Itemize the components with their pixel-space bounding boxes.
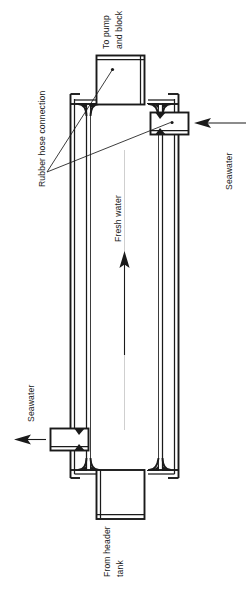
label-to-pump-line1: To pump: [101, 15, 111, 49]
label-tank-line2: tank: [115, 560, 125, 577]
label-from-header-tank: From header tank: [102, 526, 125, 577]
fresh-water-flow-arrow: [119, 251, 129, 355]
top-header-box: [97, 56, 145, 105]
seawater-inlet-arrow: [194, 118, 246, 128]
bottom-header-box: [97, 470, 145, 519]
diagram-canvas: To pump and block Rubber hose connection…: [0, 0, 248, 590]
label-seawater-outlet: Seawater: [26, 384, 36, 422]
leader-dot-icon: [111, 68, 114, 71]
label-to-pump-and-block: To pump and block: [101, 10, 124, 49]
label-seawater-inlet: Seawater: [224, 152, 234, 190]
heat-exchanger-diagram: To pump and block Rubber hose connection…: [0, 0, 248, 590]
seawater-outlet-arrow: [14, 434, 46, 444]
label-fresh-water: Fresh water: [113, 195, 123, 242]
label-and-block-line2: and block: [114, 10, 124, 49]
label-rubber-hose-connection: Rubber hose connection: [37, 90, 47, 187]
seawater-outlet-port: [51, 428, 89, 451]
seawater-inlet-port: [151, 112, 189, 135]
label-from-header-line1: From header: [102, 526, 112, 577]
leader-dot-icon: [170, 121, 173, 124]
